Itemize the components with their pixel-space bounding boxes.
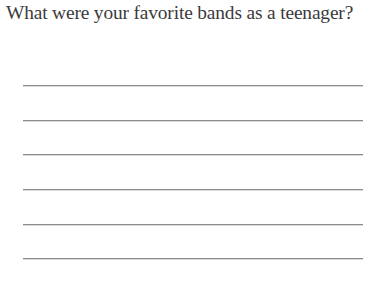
answer-line-3[interactable] <box>23 154 363 155</box>
answer-line-1[interactable] <box>23 85 363 86</box>
journal-prompt-page: What were your favorite bands as a teena… <box>0 0 383 307</box>
answer-line-2[interactable] <box>23 120 363 121</box>
answer-lines-group <box>0 0 383 307</box>
answer-line-4[interactable] <box>23 189 363 190</box>
answer-line-5[interactable] <box>23 224 363 225</box>
answer-line-6[interactable] <box>23 258 363 259</box>
